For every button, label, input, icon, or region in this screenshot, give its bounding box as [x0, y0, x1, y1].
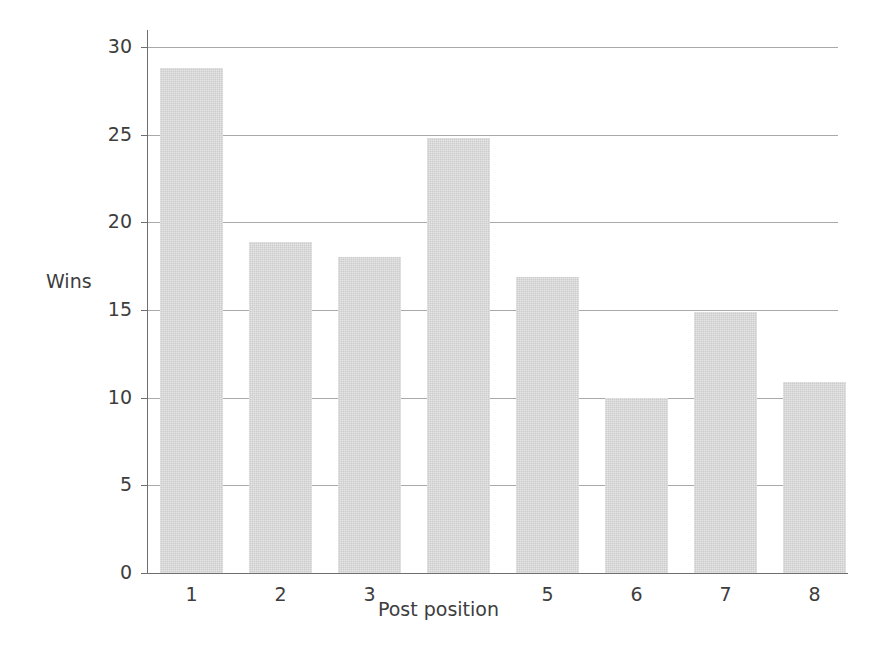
- bar: [516, 277, 579, 573]
- y-axis-tick-label: 20: [86, 212, 132, 231]
- gridline-25: [148, 135, 838, 136]
- bar: [783, 382, 846, 573]
- bar: [605, 398, 668, 573]
- y-axis-tick-mark: [141, 310, 148, 311]
- y-axis-line: [147, 30, 148, 574]
- y-axis-tick-mark: [141, 398, 148, 399]
- gridline-20: [148, 222, 838, 223]
- y-axis-tick-label: 25: [86, 125, 132, 144]
- bar: [160, 68, 223, 573]
- y-axis-tick-mark: [141, 485, 148, 486]
- x-axis-title: Post position: [0, 598, 877, 620]
- y-axis-tick-label: 5: [86, 475, 132, 494]
- y-axis-title: Wins: [46, 270, 92, 292]
- y-axis-tick-label: 15: [86, 300, 132, 319]
- y-axis-tick-mark: [141, 47, 148, 48]
- plot-area: [148, 47, 838, 573]
- x-axis-line: [148, 573, 848, 574]
- bar: [338, 257, 401, 573]
- bar: [427, 138, 490, 573]
- y-axis-tick-mark: [141, 135, 148, 136]
- bar: [249, 242, 312, 573]
- y-axis-tick-mark: [141, 222, 148, 223]
- bar: [694, 312, 757, 573]
- bar-chart-figure: 051015202530 1235678 Wins Post position: [0, 0, 877, 658]
- y-axis-tick-label: 10: [86, 388, 132, 407]
- y-axis-tick-label: 0: [86, 563, 132, 582]
- gridline-30: [148, 47, 838, 48]
- y-axis-tick-mark: [141, 573, 148, 574]
- y-axis-tick-label: 30: [86, 37, 132, 56]
